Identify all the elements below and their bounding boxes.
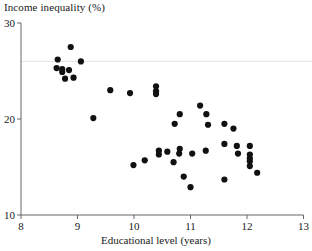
data-point bbox=[107, 87, 113, 93]
data-point bbox=[59, 69, 65, 75]
data-point bbox=[170, 159, 176, 165]
data-point bbox=[247, 163, 253, 169]
data-point bbox=[78, 58, 84, 64]
x-axis-title: Educational level (years) bbox=[0, 234, 312, 246]
data-point bbox=[153, 91, 159, 97]
data-point bbox=[221, 176, 227, 182]
data-point bbox=[90, 115, 96, 121]
data-point bbox=[247, 143, 253, 149]
data-point bbox=[130, 162, 136, 168]
data-point bbox=[181, 174, 187, 180]
data-point bbox=[164, 149, 170, 155]
data-point bbox=[187, 184, 193, 190]
data-point bbox=[70, 75, 76, 81]
x-tick-label: 11 bbox=[185, 220, 196, 232]
x-tick-label: 9 bbox=[75, 220, 81, 232]
data-point bbox=[221, 121, 227, 127]
data-point bbox=[230, 126, 236, 132]
data-point bbox=[221, 141, 227, 147]
data-point bbox=[62, 76, 68, 82]
data-point bbox=[54, 65, 60, 71]
y-tick-label: 10 bbox=[4, 209, 16, 221]
data-point bbox=[203, 148, 209, 154]
scatter-plot: 1020308910111213 bbox=[0, 0, 312, 251]
data-point bbox=[203, 111, 209, 117]
data-point bbox=[127, 90, 133, 96]
data-point bbox=[66, 67, 72, 73]
data-point bbox=[254, 170, 260, 176]
data-point bbox=[176, 150, 182, 156]
y-tick-label: 20 bbox=[4, 113, 16, 125]
x-tick-label: 13 bbox=[298, 220, 310, 232]
data-point bbox=[68, 44, 74, 50]
x-tick-label: 8 bbox=[18, 220, 24, 232]
x-tick-label: 10 bbox=[129, 220, 141, 232]
data-point bbox=[234, 143, 240, 149]
data-point bbox=[189, 150, 195, 156]
x-tick-label: 12 bbox=[242, 220, 253, 232]
data-point bbox=[55, 56, 61, 62]
data-point bbox=[172, 121, 178, 127]
data-point bbox=[156, 151, 162, 157]
y-tick-label: 30 bbox=[4, 17, 16, 29]
plot-area: 1020308910111213 bbox=[4, 17, 312, 232]
data-point bbox=[235, 150, 241, 156]
data-point bbox=[205, 122, 211, 128]
data-point bbox=[197, 102, 203, 108]
chart-root: Income inequality (%) 1020308910111213 E… bbox=[0, 0, 312, 251]
data-point bbox=[177, 111, 183, 117]
data-point bbox=[142, 157, 148, 163]
